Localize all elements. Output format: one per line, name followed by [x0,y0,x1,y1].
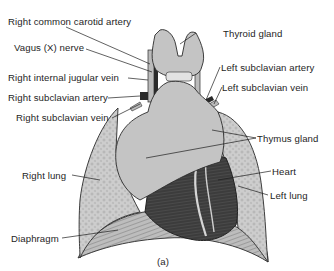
label-thyroid-gland: Thyroid gland [223,28,282,39]
label-left-subclavian-vein: Left subclavian vein [222,82,308,93]
label-left-lung: Left lung [270,190,308,201]
label-vagus-nerve: Vagus (X) nerve [14,42,84,53]
label-right-subclavian-artery: Right subclavian artery [8,92,108,103]
label-heart: Heart [272,166,296,177]
label-thymus-gland: Thymus gland [257,133,318,144]
label-right-lung: Right lung [22,170,66,181]
label-right-internal-jugular-vein: Right internal jugular vein [8,72,119,83]
thyroid-shape [152,30,203,81]
panel-label: (a) [157,256,169,267]
label-diaphragm: Diaphragm [11,233,59,244]
label-left-subclavian-artery: Left subclavian artery [221,62,314,73]
label-right-common-carotid-artery: Right common carotid artery [8,16,131,27]
label-right-subclavian-vein: Right subclavian vein [16,112,109,123]
